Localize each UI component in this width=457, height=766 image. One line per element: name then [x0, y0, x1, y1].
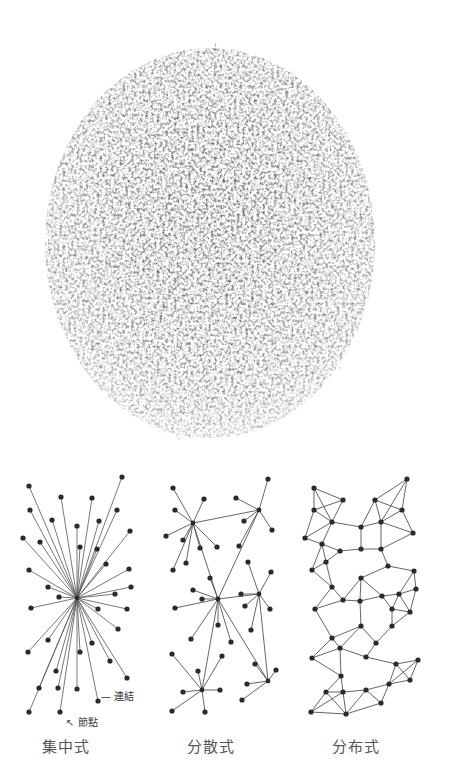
link-line [311, 692, 326, 712]
node-dot [399, 507, 404, 512]
link-line [389, 680, 410, 684]
node-dot [238, 591, 243, 596]
link-line [361, 522, 381, 527]
link-line [193, 499, 204, 523]
node-dot [56, 594, 61, 599]
link-line [173, 523, 193, 570]
link-line [311, 692, 343, 712]
link-line [360, 601, 361, 626]
node-dot [107, 658, 112, 663]
link-line [366, 657, 396, 664]
node-dot [95, 606, 100, 611]
node-dot [128, 584, 133, 589]
node-dot [337, 548, 342, 553]
node-dot [170, 485, 175, 490]
link-line [361, 566, 388, 578]
link-line [332, 626, 361, 638]
node-dot [199, 596, 204, 601]
node-dot [233, 495, 238, 500]
node-dot [74, 523, 79, 528]
node-dot [127, 528, 132, 533]
node-dot [257, 592, 262, 597]
link-line [29, 598, 77, 712]
node-dot [358, 524, 363, 529]
link-line [366, 684, 389, 690]
link-line [381, 533, 413, 549]
node-dot [26, 483, 31, 488]
node-dot [207, 575, 212, 580]
node-dot [115, 626, 120, 631]
node-dot [323, 559, 328, 564]
node-dot [357, 598, 362, 603]
link-line [173, 488, 193, 523]
link-line [314, 488, 343, 500]
node-dot [358, 575, 363, 580]
node-dot [311, 485, 316, 490]
link-label: 連結 [114, 691, 134, 702]
link-line [312, 570, 332, 587]
link-line [340, 549, 361, 551]
node-dot [89, 495, 94, 500]
link-line [392, 612, 410, 626]
node-dot [191, 521, 196, 526]
node-dot [242, 603, 247, 608]
link-line [259, 510, 272, 530]
link-line [259, 572, 271, 594]
node-dot [340, 689, 345, 694]
link-line [322, 544, 340, 551]
node-dot [378, 700, 383, 705]
node-dot [268, 569, 273, 574]
link-line [375, 500, 381, 522]
link-line [381, 684, 389, 703]
node-annotation: ↖ 節點 [66, 714, 98, 729]
link-line [414, 571, 416, 589]
node-dot [407, 677, 412, 682]
node-dot [89, 640, 94, 645]
node-dot [124, 675, 129, 680]
link-line [360, 578, 361, 601]
node-dot [74, 686, 79, 691]
node-dot [45, 584, 50, 589]
node-dot [188, 636, 193, 641]
link-line [239, 510, 259, 546]
node-label: 節點 [78, 717, 98, 728]
node-dot [363, 687, 368, 692]
link-line [381, 549, 388, 566]
link-line [259, 479, 268, 510]
node-dot [269, 527, 274, 532]
decentralized-label: 分散式 [187, 735, 235, 756]
node-dot [126, 566, 131, 571]
node-dot [358, 623, 363, 628]
link-line [361, 500, 375, 527]
link-line [193, 510, 259, 523]
node-dot [180, 537, 185, 542]
link-line [193, 523, 218, 599]
link-line [375, 479, 407, 500]
node-dot [75, 596, 79, 600]
node-dot [94, 546, 99, 551]
link-line [322, 544, 326, 562]
node-dot [358, 546, 363, 551]
link-line [175, 599, 218, 608]
node-dot [172, 605, 177, 610]
link-line [77, 521, 99, 598]
node-dot [217, 687, 222, 692]
node-dot [45, 637, 50, 642]
node-dot [410, 530, 415, 535]
link-line [40, 542, 77, 598]
link-line [326, 676, 341, 692]
link-line [218, 510, 259, 599]
network-diagram [0, 0, 457, 766]
node-dot [197, 545, 202, 550]
node-dot [311, 507, 316, 512]
link-line [60, 598, 77, 712]
node-dot [58, 494, 63, 499]
link-line [312, 638, 332, 658]
link-line [361, 578, 382, 596]
node-dot [257, 508, 262, 513]
node-dot [25, 649, 30, 654]
link-line [375, 500, 402, 510]
node-dot [363, 654, 368, 659]
node-dot [309, 567, 314, 572]
centralized-network [20, 474, 133, 714]
